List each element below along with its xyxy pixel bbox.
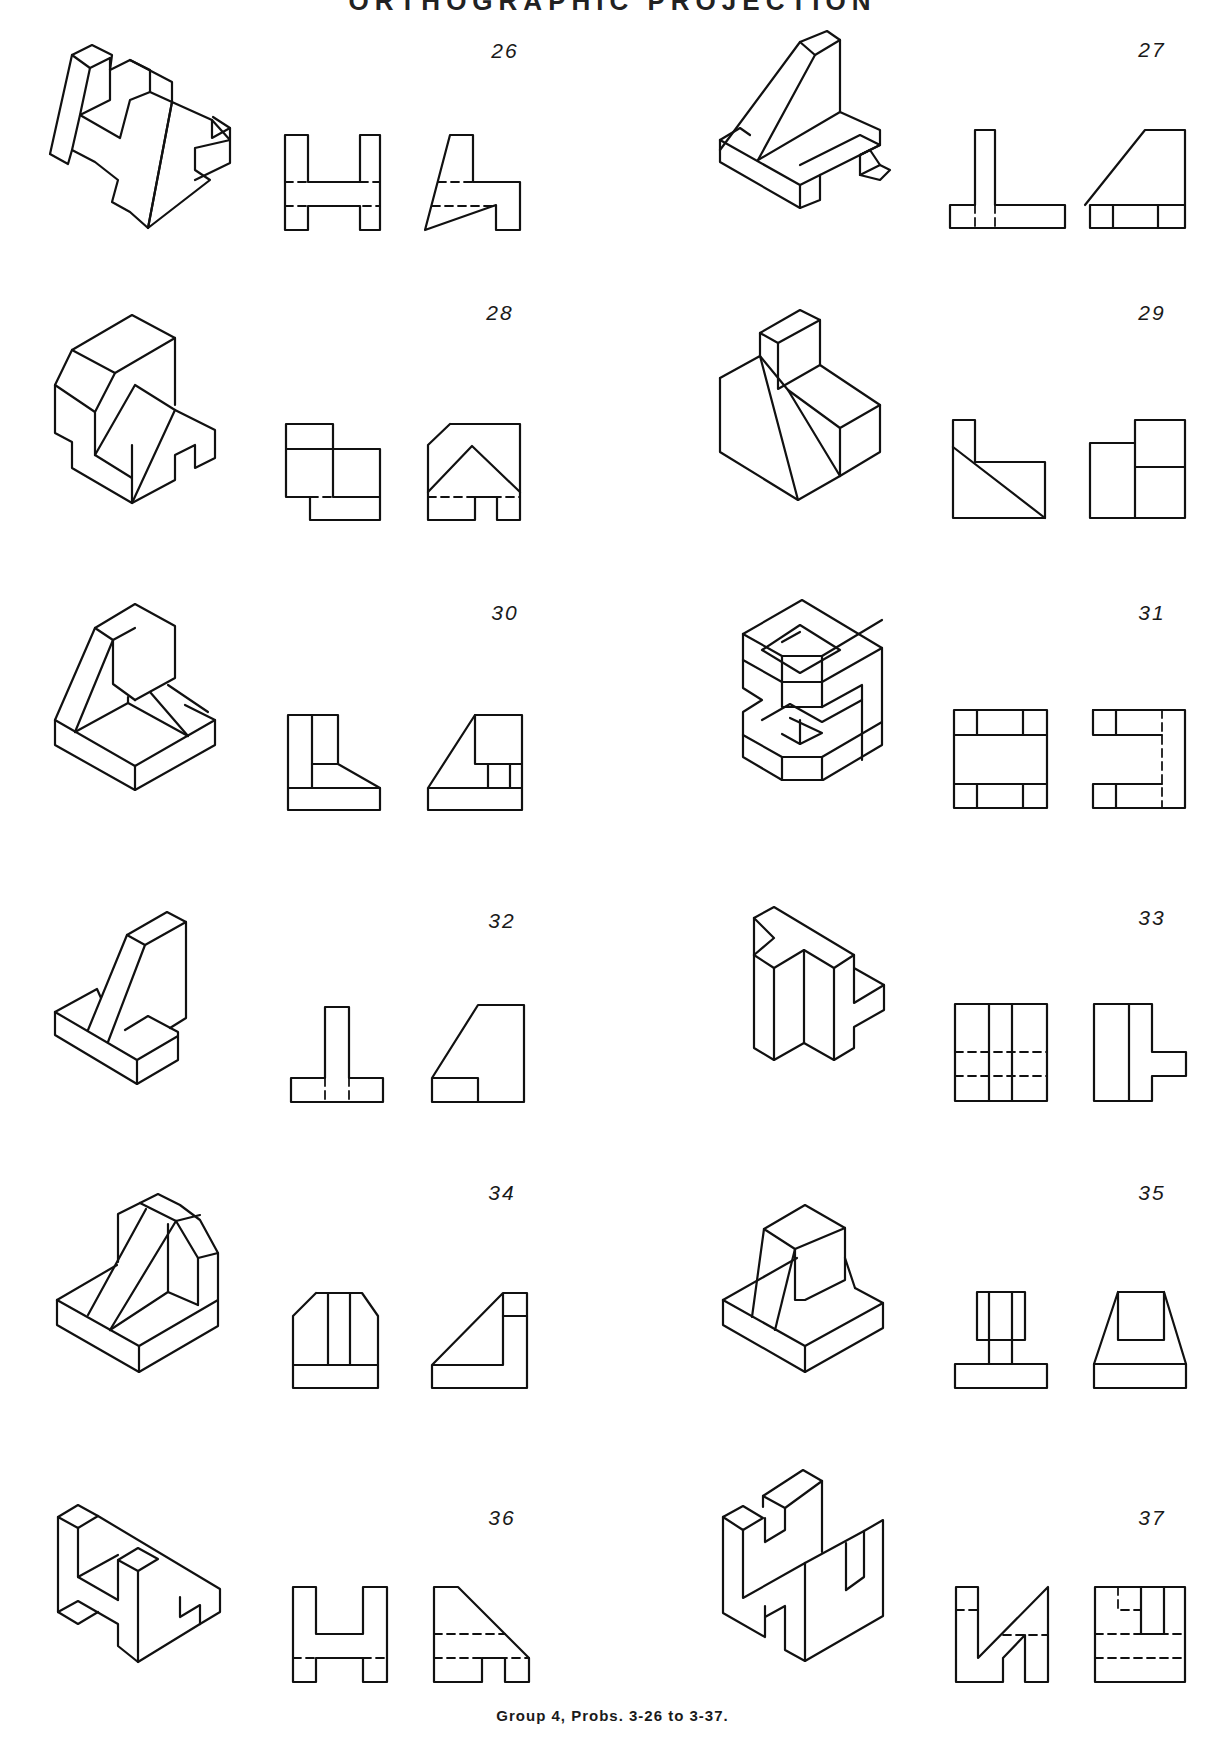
edge-line — [723, 1506, 763, 1530]
isometric-view — [723, 1205, 883, 1372]
edge-line — [754, 918, 774, 955]
edge-line — [72, 338, 175, 373]
problem-35: 35 — [723, 1181, 1186, 1388]
visible-line — [475, 715, 522, 764]
edge-line — [58, 1505, 98, 1528]
problem-number: 29 — [1137, 301, 1165, 324]
problem-number: 26 — [490, 39, 518, 62]
problem-number: 31 — [1138, 601, 1165, 624]
problem-33: 33 — [754, 906, 1186, 1101]
visible-line — [953, 420, 1045, 518]
front-view — [953, 420, 1045, 518]
problem-31: 31 — [743, 600, 1185, 808]
isometric-view — [743, 600, 882, 780]
problem-26: 26 — [50, 39, 520, 230]
edge-line — [110, 1292, 198, 1330]
visible-line — [1094, 1364, 1186, 1388]
front-view — [956, 1587, 1048, 1682]
front-view — [285, 135, 380, 230]
problem-32: 32 — [55, 909, 524, 1102]
edge-line — [723, 1517, 883, 1661]
edge-line — [58, 1601, 138, 1662]
front-view — [288, 715, 380, 810]
side-view — [1085, 130, 1185, 228]
visible-line — [1094, 1004, 1186, 1101]
problem-37: 37 — [723, 1470, 1185, 1682]
edge-line — [138, 1571, 200, 1662]
edge-line — [108, 945, 145, 1042]
edge-line — [148, 102, 172, 228]
visible-line — [1118, 1292, 1164, 1340]
visible-line — [432, 1005, 524, 1102]
edge-line — [198, 1253, 218, 1258]
isometric-view — [58, 1505, 220, 1662]
isometric-view — [55, 315, 215, 503]
edge-line — [98, 1516, 220, 1624]
front-view — [955, 1292, 1047, 1388]
edge-line — [760, 356, 840, 476]
side-view — [432, 1005, 524, 1102]
front-view — [291, 1007, 383, 1102]
visible-line — [293, 1587, 387, 1682]
problem-number: 36 — [488, 1506, 515, 1529]
problem-number: 27 — [1137, 38, 1165, 61]
problem-30: 30 — [55, 601, 522, 810]
edge-line — [57, 1265, 117, 1300]
edge-line — [720, 356, 798, 500]
side-view — [434, 1587, 529, 1682]
isometric-view — [720, 310, 880, 500]
visible-line — [432, 1293, 527, 1388]
problem-number: 33 — [1138, 906, 1165, 929]
edge-line — [72, 115, 80, 150]
edge-line — [127, 922, 186, 945]
edge-line — [765, 1508, 785, 1542]
edge-line — [72, 55, 110, 68]
edge-line — [132, 410, 175, 503]
visible-line — [428, 424, 520, 520]
edge-line — [55, 315, 175, 405]
problem-29: 29 — [720, 301, 1185, 518]
edge-line — [822, 685, 862, 760]
isometric-view — [57, 1194, 218, 1372]
problem-number: 32 — [488, 909, 515, 932]
visible-line — [428, 446, 520, 492]
edge-line — [762, 700, 862, 722]
side-view — [1094, 1292, 1186, 1388]
side-view — [1094, 1004, 1186, 1101]
front-view — [954, 710, 1047, 808]
side-view — [1095, 1587, 1185, 1682]
edge-line — [55, 385, 215, 503]
edge-line — [55, 604, 175, 720]
visible-line — [1093, 710, 1185, 808]
edge-line — [763, 1470, 822, 1552]
edge-line — [75, 640, 113, 732]
problem-28: 28 — [55, 301, 520, 520]
visible-line — [950, 130, 1065, 228]
edge-line — [743, 1530, 805, 1598]
edge-line — [760, 310, 880, 476]
edge-line — [763, 1481, 822, 1508]
edge-line — [845, 1258, 855, 1288]
edge-line — [800, 175, 820, 185]
edge-line — [778, 320, 820, 343]
side-view — [432, 1293, 527, 1388]
visible-line — [293, 1293, 378, 1388]
isometric-view — [754, 907, 884, 1060]
figure-caption: Group 4, Probs. 3-26 to 3-37. — [0, 1707, 1225, 1724]
front-view — [293, 1587, 387, 1682]
edge-line — [720, 31, 840, 150]
visible-line — [288, 715, 380, 810]
edge-line — [168, 685, 208, 712]
problem-sheet-drawing: 262728293031323334353637 — [0, 0, 1225, 1743]
edge-line — [805, 1531, 864, 1590]
edge-line — [110, 1221, 176, 1330]
front-view — [293, 1293, 378, 1388]
isometric-view — [55, 912, 186, 1084]
problem-36: 36 — [58, 1505, 529, 1682]
edge-line — [50, 150, 148, 228]
edge-line — [720, 140, 890, 208]
edge-line — [860, 145, 880, 155]
side-view — [428, 424, 520, 520]
edge-line — [150, 692, 188, 736]
edge-line — [854, 968, 884, 1003]
